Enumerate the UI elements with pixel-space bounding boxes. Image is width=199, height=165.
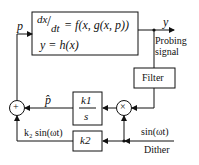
sum-sign: +	[13, 102, 19, 112]
mult-sign: ×	[120, 102, 126, 112]
eq1-den: dt	[51, 23, 60, 34]
sin-label: sin(ωt)	[141, 127, 169, 137]
p-hat-label: p̂	[45, 94, 51, 106]
output-y-label: y	[163, 16, 168, 28]
extremum-seeking-diagram: dx / dt = f(x, g(x, p)) y = h(x) p y Pro…	[0, 0, 199, 165]
eq1-rhs: = f(x, g(x, p))	[64, 19, 129, 31]
k2-sin-label: k₂ sin(ωt)	[24, 128, 63, 138]
filter-label: Filter	[142, 73, 164, 83]
input-p-label: p	[17, 20, 23, 32]
eq1-num: dx	[37, 14, 47, 25]
integrator-num: k1	[81, 95, 91, 106]
gain-label: k2	[80, 135, 90, 146]
dither-label: Dither	[144, 145, 170, 155]
eq2: y = h(x)	[40, 39, 79, 51]
probing-label: Probing	[155, 36, 187, 46]
signal-label: signal	[155, 47, 179, 57]
integrator-den: s	[84, 111, 88, 122]
